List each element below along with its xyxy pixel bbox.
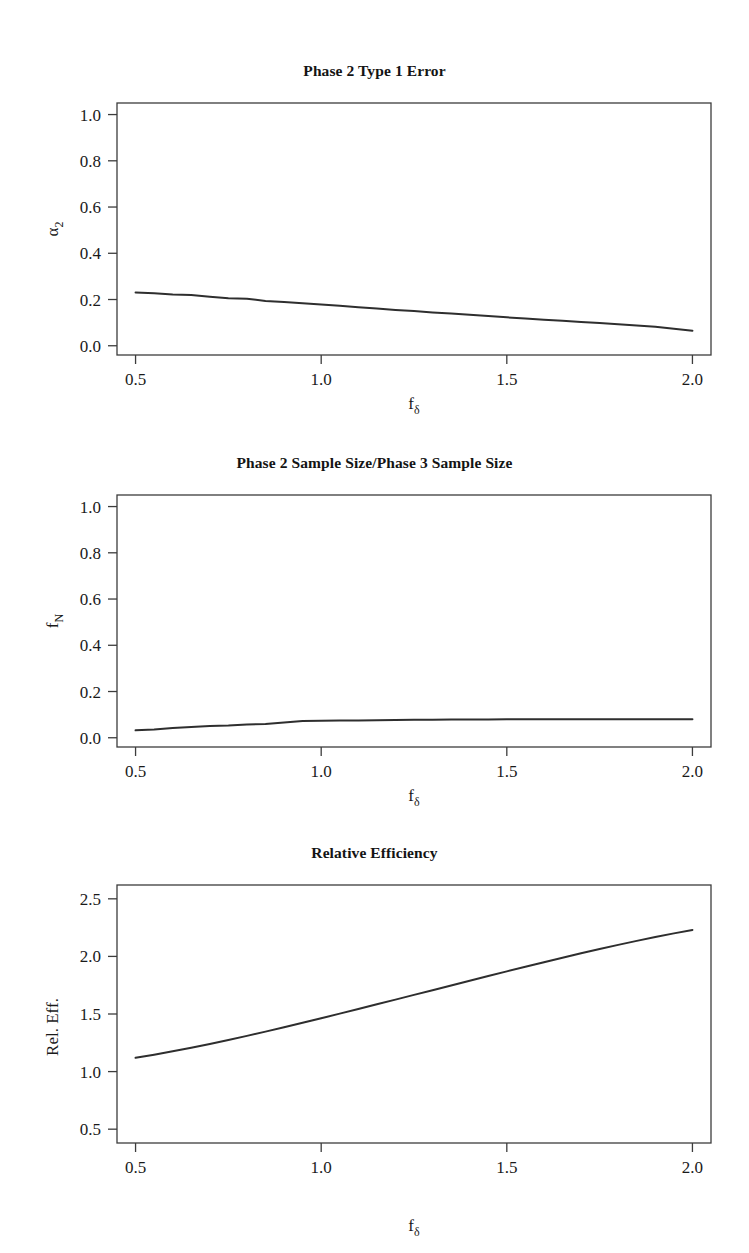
figure-container: Phase 2 Type 1 Error 0.51.01.52.00.00.20… <box>0 0 749 1253</box>
y-tick-label: 0.0 <box>80 337 101 356</box>
x-tick-label: 0.5 <box>125 762 146 781</box>
plot-frame <box>117 885 711 1143</box>
x-tick-label: 0.5 <box>125 1158 146 1177</box>
x-tick-label: 1.5 <box>496 762 517 781</box>
x-tick-label: 1.5 <box>496 370 517 389</box>
x-tick-label: 2.0 <box>682 762 703 781</box>
y-tick-label: 1.0 <box>80 498 101 517</box>
data-curve <box>136 930 693 1058</box>
y-tick-label: 0.6 <box>80 198 101 217</box>
plot-frame <box>117 495 711 747</box>
y-tick-label: 0.6 <box>80 590 101 609</box>
y-tick-label: 0.8 <box>80 544 101 563</box>
data-curve <box>136 293 693 331</box>
x-tick-label: 1.0 <box>311 762 332 781</box>
y-tick-label: 1.5 <box>80 1005 101 1024</box>
x-tick-label: 1.0 <box>311 1158 332 1177</box>
plot-area-panel-2: 0.51.01.52.00.00.20.40.60.81.0 fδ fN <box>0 392 749 812</box>
axis-tick-labels: 0.51.01.52.00.00.20.40.60.81.0 <box>80 498 703 781</box>
y-tick-label: 0.2 <box>80 291 101 310</box>
y-tick-label: 2.0 <box>80 947 101 966</box>
y-axis-label: α2 <box>43 222 66 237</box>
y-axis-label: Rel. Eff. <box>43 998 62 1056</box>
y-tick-label: 0.5 <box>80 1120 101 1139</box>
y-tick-label: 0.0 <box>80 729 101 748</box>
chart-panel-relative-efficiency: Relative Efficiency 0.51.01.52.00.51.01.… <box>0 782 749 1242</box>
axis-ticks <box>108 115 692 364</box>
y-tick-label: 2.5 <box>80 890 101 909</box>
x-tick-label: 0.5 <box>125 370 146 389</box>
axis-tick-labels: 0.51.01.52.00.51.01.52.02.5 <box>80 890 703 1177</box>
plot-frame <box>117 103 711 355</box>
y-tick-label: 1.0 <box>80 1063 101 1082</box>
plot-area-panel-1: 0.51.01.52.00.00.20.40.60.81.0 fδ α2 <box>0 0 749 420</box>
y-tick-label: 1.0 <box>80 106 101 125</box>
chart-panel-sample-size-ratio: Phase 2 Sample Size/Phase 3 Sample Size … <box>0 392 749 812</box>
axis-tick-labels: 0.51.01.52.00.00.20.40.60.81.0 <box>80 106 703 389</box>
chart-panel-phase2-type1-error: Phase 2 Type 1 Error 0.51.01.52.00.00.20… <box>0 0 749 420</box>
x-axis-label: fδ <box>408 1216 420 1239</box>
y-tick-label: 0.4 <box>80 244 102 263</box>
y-tick-label: 0.2 <box>80 683 101 702</box>
x-tick-label: 2.0 <box>682 1158 703 1177</box>
axis-ticks <box>108 899 692 1152</box>
y-tick-label: 0.8 <box>80 152 101 171</box>
x-tick-label: 1.5 <box>496 1158 517 1177</box>
x-tick-label: 2.0 <box>682 370 703 389</box>
data-curve <box>136 719 693 730</box>
x-tick-label: 1.0 <box>311 370 332 389</box>
y-tick-label: 0.4 <box>80 636 102 655</box>
plot-area-panel-3: 0.51.01.52.00.51.01.52.02.5 fδ Rel. Eff. <box>0 782 749 1242</box>
y-axis-label: fN <box>43 614 66 629</box>
